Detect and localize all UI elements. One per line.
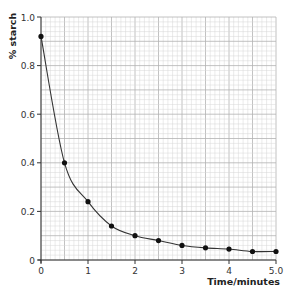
data-point	[62, 160, 67, 165]
x-tick-label: 2	[132, 266, 138, 276]
y-axis-ticks: 00.20.40.60.81.0	[21, 13, 41, 266]
y-tick-label: 0.8	[21, 61, 36, 71]
data-point	[132, 233, 137, 238]
data-point	[179, 243, 184, 248]
x-tick-label: 5.0	[269, 266, 284, 276]
data-point	[250, 249, 255, 254]
y-tick-label: 1.0	[21, 13, 36, 23]
y-tick-label: 0.6	[21, 110, 36, 120]
y-tick-label: 0.2	[21, 207, 35, 217]
data-point	[226, 246, 231, 251]
x-tick-label: 1	[85, 266, 91, 276]
x-tick-label: 3	[179, 266, 185, 276]
y-axis-title: % starch	[7, 13, 18, 60]
data-point	[203, 245, 208, 250]
x-tick-label: 0	[38, 266, 44, 276]
grid	[41, 17, 276, 260]
data-point	[85, 199, 90, 204]
data-point	[156, 238, 161, 243]
data-point	[109, 223, 114, 228]
y-tick-label: 0.4	[21, 158, 36, 168]
data-point	[273, 249, 278, 254]
x-tick-label: 4	[226, 266, 232, 276]
x-axis-title: Time/minutes	[207, 276, 280, 287]
data-point	[38, 34, 43, 39]
x-axis-ticks: 012345.0	[38, 260, 283, 276]
y-tick-label: 0	[29, 256, 35, 266]
starch-time-chart: 012345.0 00.20.40.60.81.0 % starch Time/…	[0, 0, 291, 295]
